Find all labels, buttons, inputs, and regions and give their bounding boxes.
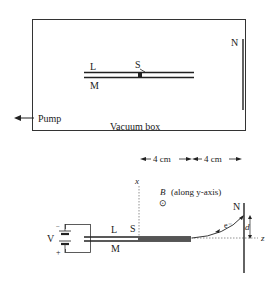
- dimension-right: 4 cm: [192, 154, 242, 164]
- label-n: N: [233, 201, 240, 212]
- label-l: L: [90, 61, 96, 72]
- dim-arrow-icon: [248, 215, 252, 219]
- label-m: M: [111, 243, 120, 254]
- electron-label: e⁻: [224, 221, 232, 230]
- label-l: L: [111, 224, 117, 235]
- vacuum-box-label: Vacuum box: [110, 121, 160, 132]
- dim-arrow-icon: [192, 157, 198, 161]
- source-s-marker: [138, 72, 142, 78]
- electron-trajectory: [192, 216, 243, 238]
- pump-label: Pump: [38, 113, 61, 124]
- dim-right-label: 4 cm: [204, 154, 222, 164]
- label-s: S: [135, 59, 141, 70]
- diagram: L M S N Pump Vacuum box 4 cm 4 cm x: [0, 0, 277, 281]
- field-symbol: B: [160, 187, 166, 197]
- deflection-figure: 4 cm 4 cm x B (along y-axis) ⊙: [47, 154, 265, 273]
- dimension-left: 4 cm: [140, 154, 192, 164]
- dim-arrow-icon: [186, 157, 192, 161]
- label-m: M: [90, 80, 99, 91]
- voltage-label: V: [47, 233, 55, 244]
- dim-arrow-icon: [140, 157, 146, 161]
- dim-arrow-icon: [236, 157, 242, 161]
- minus-sign: −: [56, 223, 60, 231]
- field-out-of-page-icon: ⊙: [159, 198, 167, 208]
- field-note: (along y-axis): [171, 187, 221, 197]
- vacuum-box-figure: L M S N Pump Vacuum box: [14, 20, 246, 133]
- plate-shaded-region: [138, 237, 191, 241]
- z-axis-label: z: [260, 233, 265, 243]
- pump-arrow-icon: [14, 115, 21, 121]
- label-s: S: [130, 223, 136, 234]
- dim-left-label: 4 cm: [153, 154, 171, 164]
- source-arrow-icon: [140, 69, 145, 72]
- label-n: N: [231, 37, 238, 48]
- x-axis-label: x: [134, 176, 139, 186]
- plus-sign: +: [56, 248, 61, 257]
- deflection-label: d: [245, 222, 250, 232]
- battery-circuit: − + V: [47, 223, 91, 257]
